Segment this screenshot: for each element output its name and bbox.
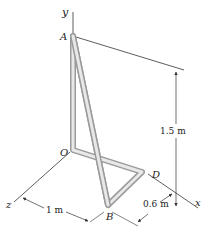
x-offset-dimension-label: 0.6 m — [143, 199, 169, 209]
top-reference-line — [76, 37, 184, 70]
z-length-dimension-label: 1 m — [46, 205, 64, 215]
point-a-label: A — [59, 31, 67, 42]
bent-rod-diagram: y A O D B z x 1.5 m 1 m 0.6 m — [0, 0, 206, 232]
point-o-label: O — [60, 147, 68, 158]
point-d-label: D — [151, 169, 160, 180]
z-axis-label: z — [5, 199, 12, 210]
z-length-dimension — [23, 198, 104, 222]
y-axis-label: y — [61, 6, 69, 19]
bent-rod — [73, 36, 142, 205]
height-dimension-label: 1.5 m — [160, 126, 186, 136]
x-axis-label: x — [195, 197, 201, 208]
z-axis — [14, 152, 70, 202]
point-b-label: B — [105, 211, 113, 222]
